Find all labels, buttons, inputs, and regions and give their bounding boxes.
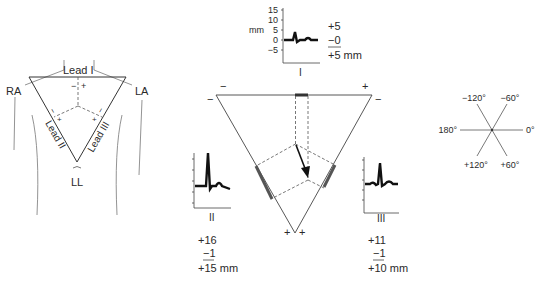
lead-i-minus: −	[71, 81, 76, 91]
lead-i-tick-0: 0	[273, 35, 278, 45]
lead-iii-pos-sign: +	[299, 226, 305, 238]
lead-ii-plus: +	[57, 115, 62, 124]
lead-iii-neg-sign: −	[375, 93, 381, 105]
lead-i-ecg	[281, 8, 320, 63]
lead-i-label: Lead I	[63, 64, 94, 76]
lead-ii-neg-sign: −	[207, 93, 213, 105]
lead-iii-projection	[324, 165, 335, 187]
lead-i-trace	[284, 32, 318, 42]
torso-left-arm	[14, 97, 15, 150]
hex-label-180: 180°	[438, 125, 457, 135]
lead-i-name: I	[299, 67, 302, 78]
lead-i-unit: mm	[249, 25, 264, 35]
lead-iii-net: +10 mm	[368, 262, 408, 274]
lead-i-tick-15: 15	[268, 5, 278, 15]
lead-iii-name: III	[377, 213, 385, 224]
lead-iii-plus: +	[92, 115, 97, 124]
lead-ii-net: +15 mm	[198, 262, 238, 274]
lead-iii-negative: −1	[373, 247, 386, 259]
lead-i-net: +5 mm	[328, 49, 362, 61]
lead-i-negative: −0	[328, 34, 341, 46]
la-label: LA	[135, 85, 149, 97]
lead-i-plus: +	[81, 81, 86, 91]
einthoven-triangle	[216, 94, 372, 234]
ecg-axis-diagram: RA LA LL Lead I − + − + − + Lead II Lead…	[0, 0, 541, 284]
lead-i-pos-sign: +	[362, 80, 368, 92]
torso-triangle	[29, 77, 126, 168]
hex-label-plus60: +60°	[501, 160, 520, 170]
torso-right-side	[116, 115, 122, 215]
hex-label-plus120: +120°	[464, 160, 488, 170]
torso-left-side	[32, 115, 38, 215]
arrow-head-icon	[301, 166, 310, 178]
hexaxial-reference	[460, 104, 523, 156]
lead-i-tick-neg5: −5	[268, 45, 278, 55]
lead-i-neg-sign: −	[220, 80, 226, 92]
torso-right-shoulder	[94, 60, 132, 85]
lead-ii-label: Lead II	[43, 119, 68, 151]
ra-label: RA	[6, 85, 22, 97]
lead-ii-trace	[195, 153, 230, 189]
lead-iii-trace	[365, 163, 398, 186]
lead-i-tick-10: 10	[268, 15, 278, 25]
lead-ii-positive: +16	[198, 234, 217, 246]
hex-label-minus120: −120°	[462, 93, 486, 103]
lead-i-projection	[295, 94, 308, 97]
lead-ii-name: II	[209, 212, 215, 223]
hex-label-minus60: −60°	[501, 93, 520, 103]
torso-right-arm	[139, 100, 142, 175]
lead-ii-ecg	[192, 153, 231, 208]
lead-iii-label: Lead III	[85, 120, 111, 154]
lead-i-tick-5: 5	[273, 25, 278, 35]
ll-label: LL	[71, 176, 83, 188]
lead-iii-positive: +11	[368, 234, 386, 246]
lead-iii-ecg	[362, 157, 399, 213]
lead-ii-projection	[256, 166, 272, 199]
lead-ii-negative: −1	[203, 247, 216, 259]
hex-label-0: 0°	[526, 125, 535, 135]
lead-ii-pos-sign: +	[284, 226, 290, 238]
lead-i-positive: +5	[328, 20, 341, 32]
lead-iii-minus: −	[96, 106, 106, 115]
